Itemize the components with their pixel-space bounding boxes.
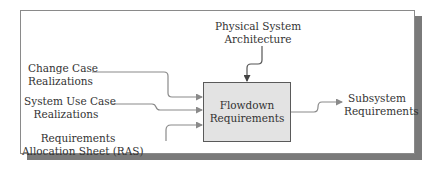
output-label-line1: Subsystem bbox=[344, 92, 410, 105]
input-label-ras: Requirements Allocation Sheet (RAS) bbox=[22, 132, 134, 158]
input-label-system-use-case: System Use Case Realizations bbox=[24, 95, 108, 121]
input-label-change-case: Change Case Realizations bbox=[28, 62, 98, 88]
output-label-subsystem-requirements: Subsystem Requirements bbox=[344, 92, 410, 118]
input-label-line1: System Use Case bbox=[24, 95, 108, 108]
control-arrow-physical-architecture bbox=[247, 46, 262, 81]
output-label-line2: Requirements bbox=[344, 105, 410, 118]
process-label-line1: Flowdown bbox=[220, 99, 275, 112]
input-label-line1: Requirements bbox=[22, 132, 134, 145]
input-arrow-ras bbox=[166, 125, 202, 141]
input-label-line2: Allocation Sheet (RAS) bbox=[22, 145, 134, 158]
input-label-line2: Realizations bbox=[28, 75, 98, 88]
process-label-line2: Requirements bbox=[210, 112, 285, 125]
control-label-line1: Physical System bbox=[208, 20, 308, 33]
control-label-line2: Architecture bbox=[208, 33, 308, 46]
output-arrow-subsystem bbox=[290, 102, 342, 112]
control-label-physical-system-architecture: Physical System Architecture bbox=[208, 20, 308, 46]
input-label-line2: Realizations bbox=[24, 108, 108, 121]
input-label-line1: Change Case bbox=[28, 62, 98, 75]
process-box-flowdown-requirements: Flowdown Requirements bbox=[203, 82, 291, 142]
input-arrow-change-case bbox=[92, 72, 202, 97]
input-arrow-system-use-case bbox=[112, 104, 202, 110]
